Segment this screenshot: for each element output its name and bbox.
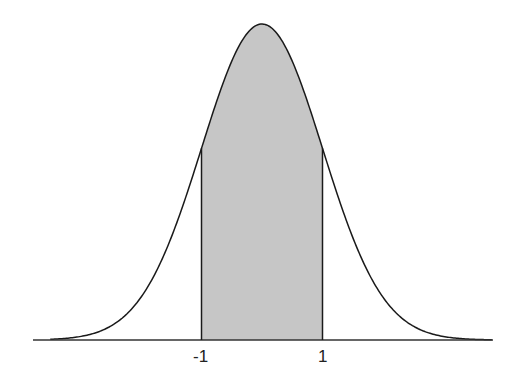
tick-label-pos-one: 1	[318, 347, 327, 366]
shaded-region-one-sd	[202, 24, 323, 340]
normal-distribution-chart: -1 1	[0, 0, 518, 375]
tick-label-neg-one: -1	[193, 347, 208, 366]
